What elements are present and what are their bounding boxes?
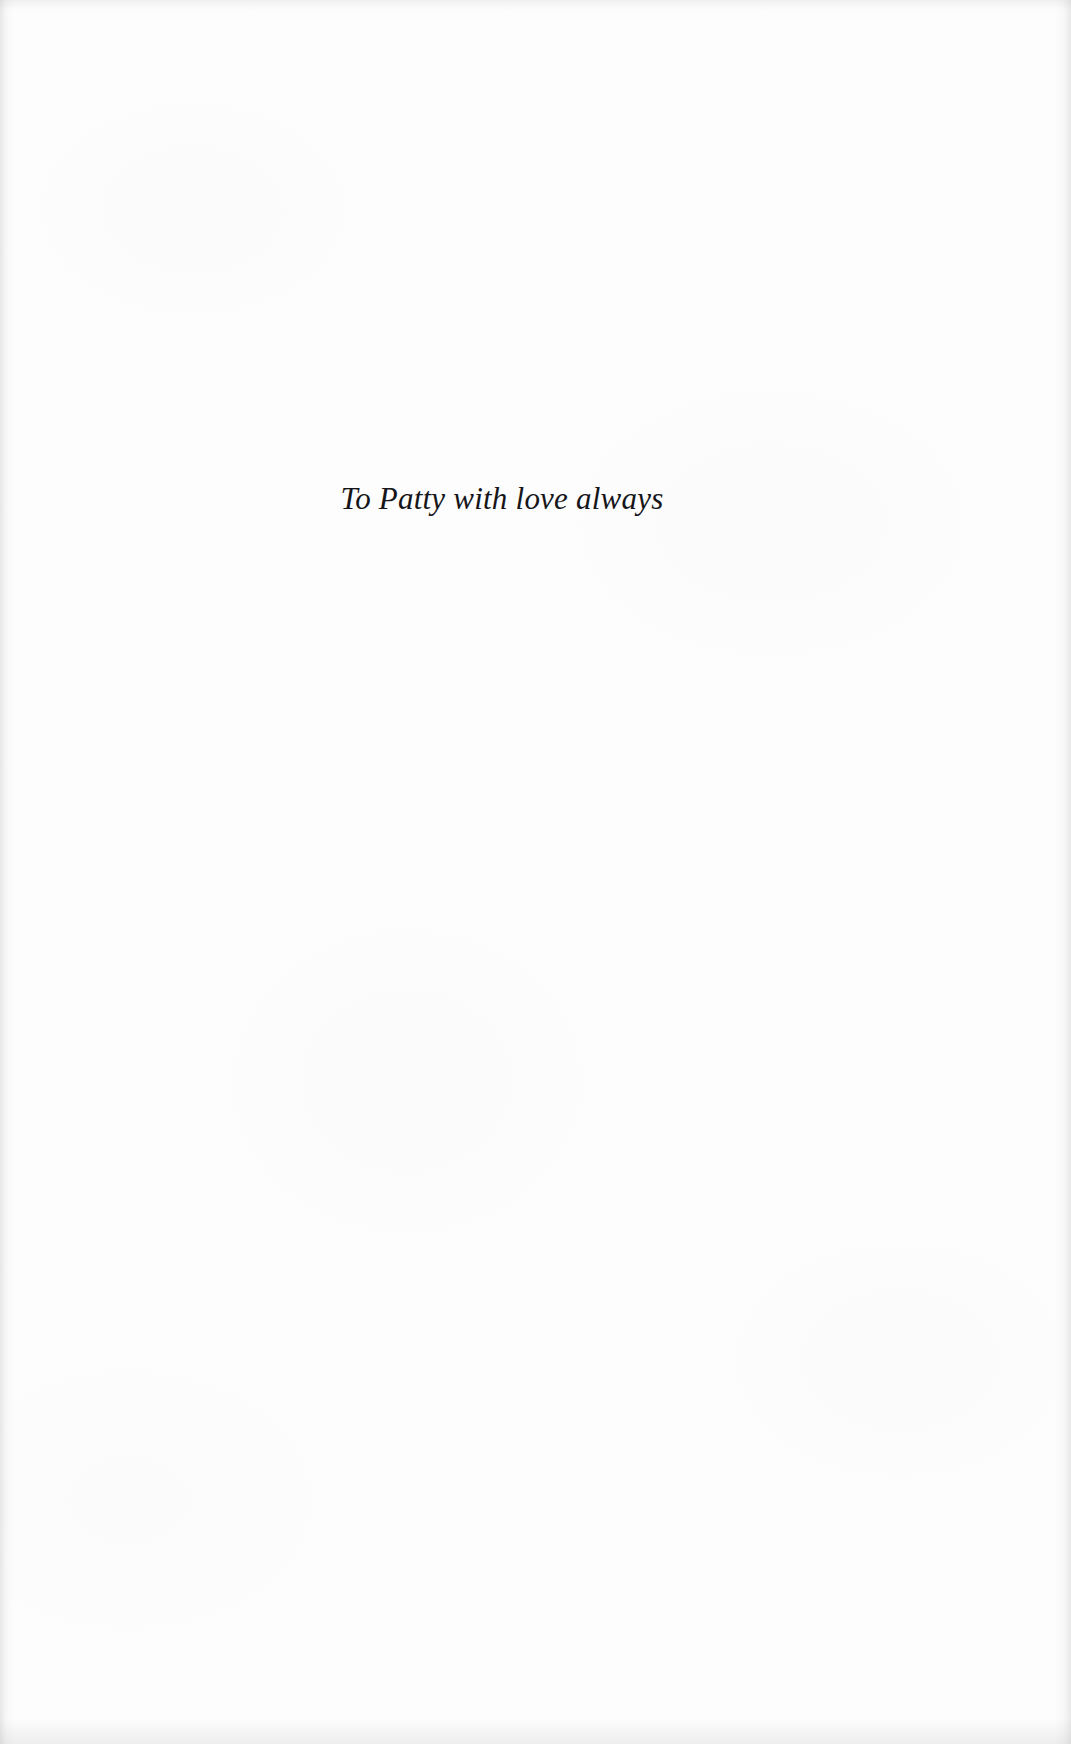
dedication-block: To Patty with love always: [0, 481, 1004, 518]
scan-edge-top: [0, 0, 1071, 10]
scan-edge-right: [1055, 0, 1071, 1744]
scan-edge-bottom: [0, 1718, 1071, 1744]
paper-grain-texture: [0, 0, 1071, 1744]
dedication-page: To Patty with love always: [0, 0, 1071, 1744]
dedication-text: To Patty with love always: [341, 481, 664, 518]
scan-edge-left: [0, 0, 14, 1744]
